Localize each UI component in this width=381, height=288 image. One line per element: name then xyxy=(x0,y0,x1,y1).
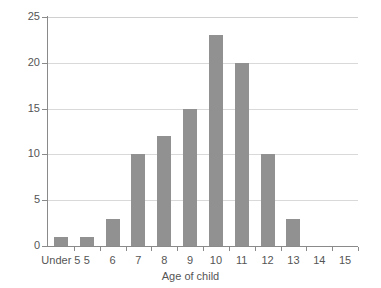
bar xyxy=(183,109,197,246)
x-tick-mark xyxy=(151,247,152,251)
bar xyxy=(209,35,223,246)
y-tick-label-5: 5 xyxy=(2,194,40,205)
x-tick-label: 15 xyxy=(323,254,367,266)
bar xyxy=(131,154,145,246)
gridline-15 xyxy=(48,109,358,110)
x-tick-mark xyxy=(255,247,256,251)
x-tick-mark xyxy=(100,247,101,251)
x-tick-mark xyxy=(177,247,178,251)
y-tick-label-10: 10 xyxy=(2,148,40,159)
y-tick-label-25: 25 xyxy=(2,11,40,22)
x-axis-title: Age of child xyxy=(0,270,381,282)
gridline-10 xyxy=(48,154,358,155)
bar xyxy=(286,219,300,246)
x-tick-mark xyxy=(126,247,127,251)
gridline-20 xyxy=(48,63,358,64)
x-tick-mark xyxy=(306,247,307,251)
bar xyxy=(54,237,68,246)
x-tick-mark xyxy=(332,247,333,251)
x-tick-mark xyxy=(281,247,282,251)
y-axis-labels: 0510152025 xyxy=(0,0,40,288)
y-tick-label-15: 15 xyxy=(2,103,40,114)
bar xyxy=(80,237,94,246)
bar xyxy=(106,219,120,246)
gridline-5 xyxy=(48,200,358,201)
bar xyxy=(261,154,275,246)
x-tick-mark xyxy=(203,247,204,251)
y-tick-label-20: 20 xyxy=(2,57,40,68)
bar xyxy=(235,63,249,246)
bar-chart: 0510152025 Under 556789101112131415 Age … xyxy=(0,0,381,288)
x-tick-mark xyxy=(229,247,230,251)
x-tick-mark xyxy=(74,247,75,251)
plot-area xyxy=(48,17,358,246)
y-tick-label-0: 0 xyxy=(2,240,40,251)
bar xyxy=(157,136,171,246)
gridline-25 xyxy=(48,17,358,18)
x-tick-mark xyxy=(358,247,359,251)
